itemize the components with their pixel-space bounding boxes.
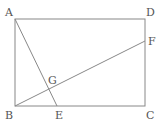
segment-bf bbox=[15, 41, 145, 106]
label-a: A bbox=[4, 6, 14, 19]
label-d: D bbox=[146, 6, 155, 19]
geometry-diagram: A D F G B E C bbox=[0, 0, 166, 129]
label-b: B bbox=[5, 109, 13, 122]
rectangle-abcd bbox=[15, 19, 145, 106]
label-e: E bbox=[55, 109, 63, 122]
label-c: C bbox=[146, 109, 154, 122]
label-g: G bbox=[48, 74, 57, 87]
label-f: F bbox=[148, 35, 156, 48]
segment-ae bbox=[15, 19, 57, 106]
